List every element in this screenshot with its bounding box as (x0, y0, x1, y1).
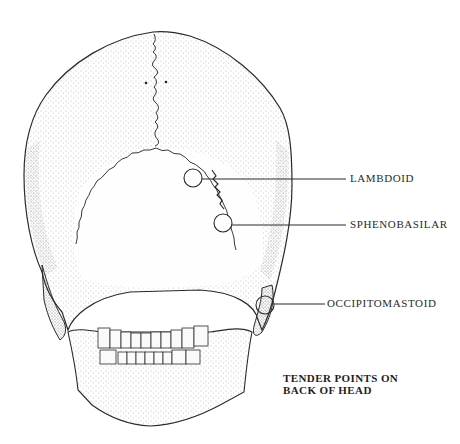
figure-caption: TENDER POINTS ON BACK OF HEAD (283, 372, 398, 396)
skull-diagram: LAMBDOID SPHENOBASILAR OCCIPITOMASTOID T… (0, 0, 460, 444)
marker-sphenobasilar (214, 214, 346, 232)
marker-lambdoid (184, 169, 346, 187)
label-sphenobasilar: SPHENOBASILAR (350, 218, 448, 230)
marker-occipitomastoid (256, 296, 325, 314)
label-lambdoid: LAMBDOID (350, 172, 414, 184)
caption-line-2: BACK OF HEAD (283, 384, 398, 396)
caption-line-1: TENDER POINTS ON (283, 372, 398, 384)
label-occipitomastoid: OCCIPITOMASTOID (327, 297, 436, 309)
